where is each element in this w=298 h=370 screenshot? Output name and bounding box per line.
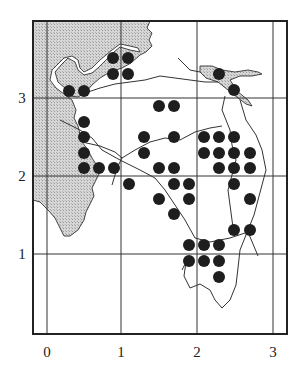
occurrence-dot: [122, 68, 134, 80]
occurrence-dot: [138, 147, 150, 159]
occurrence-dot: [168, 178, 180, 190]
occurrence-dot: [198, 147, 210, 159]
occurrence-dot: [168, 162, 180, 174]
occurrence-dot: [138, 131, 150, 143]
occurrence-dot: [228, 147, 240, 159]
occurrence-dot: [228, 131, 240, 143]
occurrence-dot: [168, 131, 180, 143]
occurrence-dot: [78, 147, 90, 159]
occurrence-dot: [78, 85, 90, 97]
occurrence-dot: [153, 193, 165, 205]
x-tick-1: 1: [117, 344, 125, 360]
x-axis-labels: 0 1 2 3: [43, 344, 277, 360]
occurrence-dot: [213, 68, 225, 80]
occurrence-dot: [78, 131, 90, 143]
y-axis-labels: 1 2 3: [18, 90, 26, 262]
x-tick-3: 3: [269, 344, 277, 360]
x-tick-2: 2: [193, 344, 201, 360]
y-tick-3: 3: [18, 90, 26, 106]
occurrence-dot: [168, 208, 180, 220]
occurrence-dot: [198, 255, 210, 267]
occurrence-dot: [183, 239, 195, 251]
occurrence-dot: [213, 239, 225, 251]
occurrence-dot: [213, 271, 225, 283]
map-figure: 0 1 2 3 1 2 3: [0, 0, 298, 370]
occurrence-dot: [183, 255, 195, 267]
occurrence-dot: [228, 178, 240, 190]
occurrence-dot: [153, 100, 165, 112]
occurrence-dot: [213, 131, 225, 143]
occurrence-dot: [198, 239, 210, 251]
occurrence-dot: [228, 162, 240, 174]
occurrence-dot: [107, 68, 119, 80]
occurrence-dot: [153, 162, 165, 174]
occurrence-dot: [228, 224, 240, 236]
y-tick-1: 1: [18, 246, 26, 262]
occurrence-dot: [244, 193, 256, 205]
occurrence-dot: [168, 100, 180, 112]
occurrence-dot: [183, 193, 195, 205]
occurrence-dot: [123, 178, 135, 190]
x-tick-0: 0: [43, 344, 51, 360]
occurrence-dot: [213, 255, 225, 267]
occurrence-dot: [244, 224, 256, 236]
occurrence-dot: [63, 85, 75, 97]
occurrence-dot: [78, 116, 90, 128]
occurrence-dot: [122, 52, 134, 64]
occurrence-dot: [108, 162, 120, 174]
sea-area: [33, 21, 152, 236]
occurrence-dot: [183, 178, 195, 190]
occurrence-dot: [213, 147, 225, 159]
occurrence-dot: [213, 162, 225, 174]
occurrence-dot: [244, 147, 256, 159]
occurrence-dot: [198, 131, 210, 143]
occurrence-dot: [78, 162, 90, 174]
y-tick-2: 2: [18, 168, 26, 184]
occurrence-dot: [244, 162, 256, 174]
occurrence-dot: [228, 84, 240, 96]
occurrence-dot: [107, 52, 119, 64]
occurrence-dot: [93, 162, 105, 174]
